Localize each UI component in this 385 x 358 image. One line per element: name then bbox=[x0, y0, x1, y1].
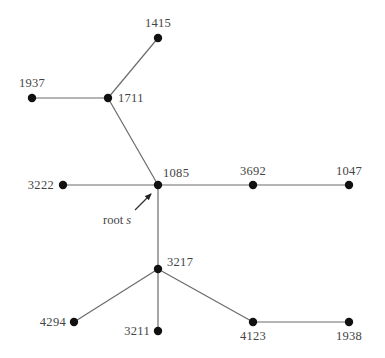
labels-group: 1415193717113222108536921047321742943211… bbox=[19, 16, 362, 343]
node-1047 bbox=[345, 181, 353, 189]
spanning-tree-diagram: 1415193717113222108536921047321742943211… bbox=[0, 0, 385, 358]
node-3211 bbox=[154, 327, 162, 335]
node-label-1415: 1415 bbox=[145, 16, 171, 30]
node-label-1938: 1938 bbox=[336, 329, 362, 343]
node-4294 bbox=[70, 318, 78, 326]
node-label-3222: 3222 bbox=[28, 178, 54, 192]
node-label-1047: 1047 bbox=[336, 164, 362, 178]
root-pointer-arrow bbox=[135, 194, 151, 210]
node-1711 bbox=[104, 94, 112, 102]
node-1085 bbox=[154, 181, 162, 189]
node-1415 bbox=[154, 34, 162, 42]
edges-group bbox=[32, 38, 349, 331]
node-3217 bbox=[154, 265, 162, 273]
node-label-1085: 1085 bbox=[163, 166, 189, 180]
node-3222 bbox=[59, 181, 67, 189]
node-label-3692: 3692 bbox=[240, 164, 266, 178]
root-label: root s bbox=[103, 213, 131, 227]
node-3692 bbox=[249, 181, 257, 189]
edge-1711-1085 bbox=[108, 98, 158, 185]
node-1938 bbox=[345, 318, 353, 326]
node-label-3217: 3217 bbox=[167, 255, 193, 269]
node-4123 bbox=[249, 318, 257, 326]
root-label-text: root bbox=[103, 213, 126, 227]
node-label-1937: 1937 bbox=[19, 76, 45, 90]
node-label-4123: 4123 bbox=[240, 329, 266, 343]
node-label-3211: 3211 bbox=[124, 324, 150, 338]
edge-3217-4294 bbox=[74, 269, 158, 322]
node-1937 bbox=[28, 94, 36, 102]
root-label-var: s bbox=[126, 213, 131, 227]
edge-3217-4123 bbox=[158, 269, 253, 322]
edge-1415-1711 bbox=[108, 38, 158, 98]
node-label-1711: 1711 bbox=[118, 91, 144, 105]
node-label-4294: 4294 bbox=[40, 315, 67, 329]
